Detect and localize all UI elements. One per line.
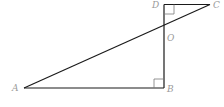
label-a: A [11, 83, 19, 93]
label-o: O [167, 33, 175, 43]
right-angle-marker-d [164, 5, 174, 15]
label-b: B [166, 84, 174, 94]
label-c: C [213, 0, 220, 10]
geometry-diagram: A B C D O [0, 0, 224, 107]
segment-ac [24, 5, 210, 89]
label-d: D [151, 0, 159, 10]
right-angle-marker-b [154, 79, 164, 88]
